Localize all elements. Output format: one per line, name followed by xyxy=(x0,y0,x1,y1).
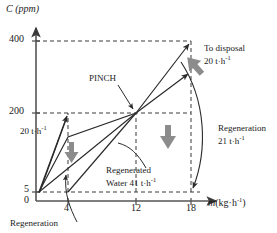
x-tick-18: 18 xyxy=(186,203,196,214)
regeneration-leader-curve xyxy=(66,175,77,222)
supply-flow-value: 20 t·h xyxy=(20,126,41,136)
y-axis-title: C (ppm) xyxy=(6,4,39,15)
regeneration-bottom-label: Regeneration xyxy=(10,219,58,229)
gray-arrow-down-left xyxy=(65,142,79,163)
supply-flow-exponent: -1 xyxy=(41,124,46,131)
regenerated-water-line2: Water 41 t·h-1 xyxy=(106,176,156,189)
regenerated-water-label: Regenerated Water 41 t·h-1 xyxy=(106,166,156,188)
to-disposal-label: To disposal 20 t·h-1 xyxy=(204,44,245,66)
to-disposal-exponent: -1 xyxy=(225,54,230,61)
to-disposal-line1: To disposal xyxy=(204,44,245,54)
x-tick-4: 4 xyxy=(64,203,69,214)
gray-arrow-down-right xyxy=(160,125,176,149)
y-tick-400: 400 xyxy=(9,34,24,45)
to-disposal-value: 20 t·h xyxy=(204,56,225,66)
regeneration-right-line2: 21 t·h-1 xyxy=(218,134,266,147)
regenerated-water-value: Water 41 t·h xyxy=(106,178,151,188)
regenerated-water-exponent: -1 xyxy=(151,176,156,183)
regeneration-right-line1: Regeneration xyxy=(218,124,266,134)
y-tick-200: 200 xyxy=(9,106,24,117)
supply-flow-label: 20 t·h-1 xyxy=(20,124,47,137)
to-disposal-line2: 20 t·h-1 xyxy=(204,54,245,67)
y-tick-0: 0 xyxy=(24,195,29,206)
regeneration-flow-curve xyxy=(181,62,202,188)
regeneration-right-label: Regeneration 21 t·h-1 xyxy=(218,124,266,146)
x-axis-title: m(kg·h-1) xyxy=(208,196,246,209)
regeneration-right-value: 21 t·h xyxy=(218,136,239,146)
figure-root: C (ppm) m(kg·h-1) 400 200 5 0 4 12 18 PI… xyxy=(0,0,277,233)
pinch-leader xyxy=(118,85,133,109)
pinch-label: PINCH xyxy=(89,74,116,84)
regenerated-water-line1: Regenerated xyxy=(106,166,156,176)
x-axis-title-unit: (kg·h xyxy=(215,197,237,208)
x-axis-title-unit-close: ) xyxy=(242,197,245,208)
x-tick-12: 12 xyxy=(131,203,141,214)
regeneration-right-exponent: -1 xyxy=(239,134,244,141)
